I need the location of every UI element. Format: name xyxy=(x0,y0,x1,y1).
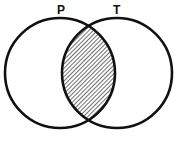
label-t: T xyxy=(113,3,121,17)
label-p: P xyxy=(57,3,65,17)
venn-diagram: P T xyxy=(0,0,178,143)
